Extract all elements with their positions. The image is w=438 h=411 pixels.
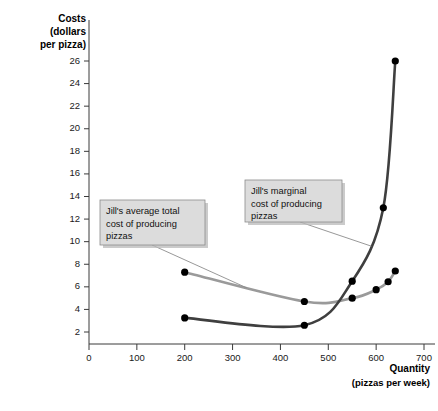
x-axis-ticks: 0100200300400500600700 (86, 344, 432, 363)
atc-callout-line-2: cost of producing (106, 219, 177, 229)
x-axis-title: Quantity (pizzas per week) (352, 363, 431, 388)
y-tick-label: 2 (75, 326, 80, 337)
annotation-layer: Jill's average totalcost of producingpiz… (100, 180, 371, 288)
data-point-mc (181, 314, 188, 321)
x-axis-title-line-2: (pizzas per week) (352, 377, 430, 388)
y-tick-label: 10 (69, 235, 80, 246)
y-axis-title-line-1: Costs (58, 13, 86, 24)
data-point-atc (301, 298, 308, 305)
x-axis-title-line-1: Quantity (389, 363, 430, 374)
data-point-atc (392, 267, 399, 274)
curve-atc (185, 271, 396, 303)
chart-canvas: Costs (dollars per pizza) Quantity (pizz… (0, 0, 438, 411)
y-tick-label: 22 (69, 100, 80, 111)
mc-callout-line-2: cost of producing (251, 199, 322, 209)
x-tick-label: 300 (225, 352, 241, 363)
y-axis-title: Costs (dollars per pizza) (40, 13, 87, 50)
data-point-mc (301, 322, 308, 329)
mc-callout: Jill's marginalcost of producingpizzas (245, 180, 371, 246)
atc-callout-line-3: pizzas (106, 231, 133, 241)
data-point-atc (373, 286, 380, 293)
x-tick-label: 0 (86, 352, 91, 363)
atc-callout: Jill's average totalcost of producingpiz… (100, 200, 247, 288)
y-tick-label: 24 (69, 77, 80, 88)
y-axis-title-line-2: (dollars (50, 26, 87, 37)
cost-curves-chart: Costs (dollars per pizza) Quantity (pizz… (0, 0, 438, 411)
y-tick-label: 18 (69, 145, 80, 156)
data-point-mc (380, 204, 387, 211)
mc-callout-leader-line (300, 222, 371, 246)
y-tick-label: 16 (69, 167, 80, 178)
y-tick-label: 12 (69, 213, 80, 224)
x-tick-label: 500 (320, 352, 336, 363)
data-point-atc (385, 278, 392, 285)
y-tick-label: 14 (69, 190, 80, 201)
x-tick-label: 400 (272, 352, 288, 363)
data-point-mc (349, 278, 356, 285)
y-tick-label: 6 (75, 280, 80, 291)
y-axis-title-line-3: per pizza) (40, 39, 86, 50)
data-point-atc (349, 295, 356, 302)
y-tick-label: 4 (75, 303, 80, 314)
mc-callout-line-1: Jill's marginal (251, 186, 307, 196)
x-tick-label: 200 (177, 352, 193, 363)
y-tick-label: 26 (69, 55, 80, 66)
atc-callout-line-1: Jill's average total (106, 206, 180, 216)
x-tick-label: 700 (416, 352, 432, 363)
data-point-mc (392, 57, 399, 64)
data-point-atc (181, 269, 188, 276)
atc-callout-leader-line (152, 245, 247, 288)
mc-callout-line-3: pizzas (251, 211, 278, 221)
y-axis-ticks: 2468101214161820222426 (69, 55, 89, 337)
x-tick-label: 100 (129, 352, 145, 363)
y-tick-label: 8 (75, 258, 80, 269)
y-tick-label: 20 (69, 122, 80, 133)
x-tick-label: 600 (368, 352, 384, 363)
